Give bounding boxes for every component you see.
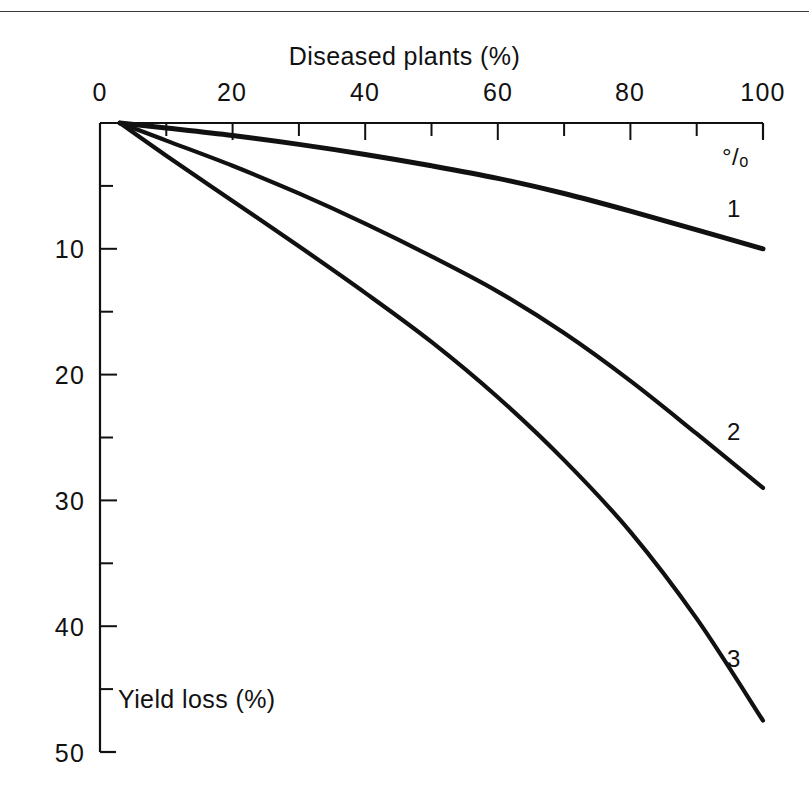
curve-layer (120, 123, 763, 721)
curve-3 (120, 123, 763, 721)
curve-2 (120, 123, 763, 488)
curve-1 (120, 123, 763, 249)
axis-layer (100, 123, 763, 752)
chart-plot-area (0, 0, 809, 807)
chart-figure: Diseased plants (%) Yield loss (%) °/ₒ 0… (0, 0, 809, 807)
